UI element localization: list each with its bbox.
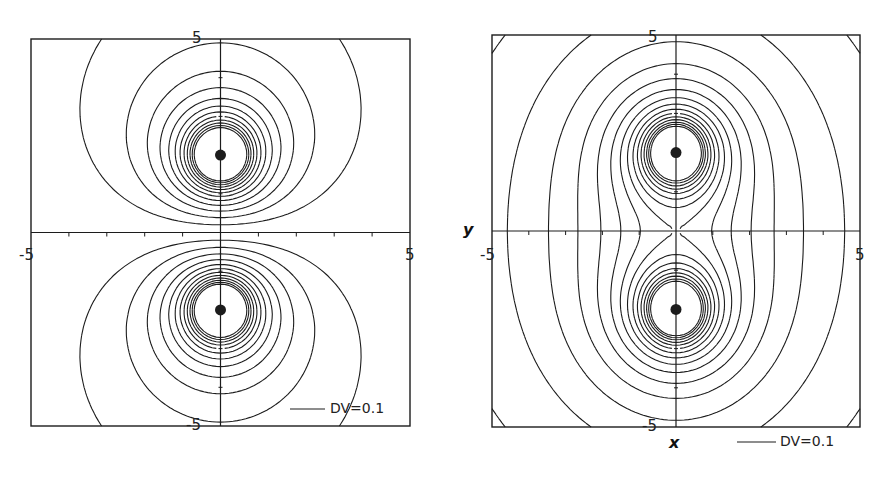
legend-label: DV=0.1 (780, 433, 834, 449)
like-charges-contour-plot: 5 -5 -5 5 y x DV=0.1 (0, 0, 888, 481)
x-axis-label: x (669, 433, 679, 452)
y-min-tick-label: -5 (642, 419, 657, 434)
x-max-tick-label: 5 (855, 248, 865, 263)
x-min-tick-label: -5 (480, 248, 495, 263)
like-charges-contour-svg (0, 0, 888, 481)
point-charge-icon (671, 147, 682, 158)
y-max-tick-label: 5 (648, 30, 658, 45)
y-axis-label: y (463, 220, 473, 239)
point-charge-icon (671, 304, 682, 315)
